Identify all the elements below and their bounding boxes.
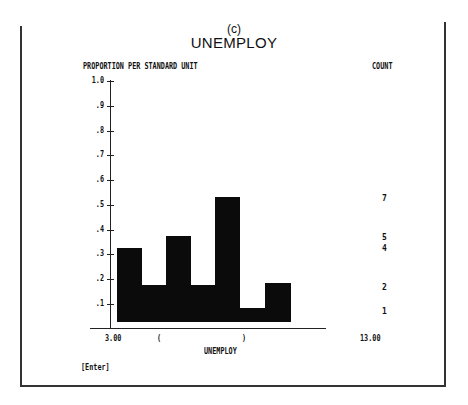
- count-label: 4: [382, 244, 387, 253]
- frame-bottom-border: [20, 385, 446, 387]
- y-tick-label: .8: [84, 126, 104, 135]
- frame-left-border: [20, 26, 22, 387]
- count-label: 7: [382, 194, 387, 203]
- frame-right-border: [444, 22, 446, 385]
- y-tick-label: 1.0: [84, 76, 104, 85]
- x-max-label: 13.00: [360, 334, 380, 343]
- histogram-bar: [265, 283, 291, 322]
- y-tick-label: .1: [84, 299, 104, 308]
- y-tick: [107, 254, 114, 255]
- y-tick: [107, 230, 114, 231]
- histogram-bar: [117, 248, 142, 322]
- figure-title: UNEMPLOY: [0, 34, 468, 51]
- y-tick-label: .6: [84, 175, 104, 184]
- interval-close-paren: ): [242, 334, 246, 343]
- x-axis-line: [90, 328, 326, 329]
- y-axis-title: PROPORTION PER STANDARD UNIT: [83, 62, 198, 71]
- y-tick-label: .9: [84, 101, 104, 110]
- x-axis-title: UNEMPLOY: [204, 347, 237, 356]
- y-tick: [107, 131, 114, 132]
- histogram-bar: [215, 197, 240, 322]
- histogram-bar: [239, 308, 266, 322]
- y-tick: [107, 81, 114, 82]
- y-tick-label: .2: [84, 274, 104, 283]
- histogram-bar: [190, 285, 216, 322]
- count-axis-title: COUNT: [372, 62, 392, 71]
- count-label: 5: [382, 233, 387, 242]
- x-min-label: 3.00: [105, 334, 121, 343]
- y-tick: [107, 279, 114, 280]
- y-tick: [107, 180, 114, 181]
- enter-prompt[interactable]: [Enter]: [81, 363, 110, 372]
- y-tick: [107, 106, 114, 107]
- histogram-bar: [166, 236, 191, 322]
- y-tick: [107, 155, 114, 156]
- histogram-bar: [141, 285, 167, 322]
- y-tick-label: .4: [84, 225, 104, 234]
- count-label: 2: [382, 283, 387, 292]
- y-tick: [107, 205, 114, 206]
- y-tick-label: .3: [84, 249, 104, 258]
- y-tick-label: .5: [84, 200, 104, 209]
- y-tick-label: .7: [84, 150, 104, 159]
- interval-open-paren: (: [157, 334, 161, 343]
- count-label: 1: [382, 307, 387, 316]
- y-tick: [107, 304, 114, 305]
